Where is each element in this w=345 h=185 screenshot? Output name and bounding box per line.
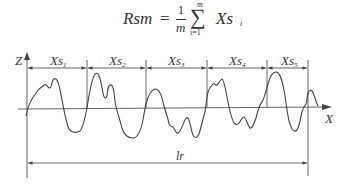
segment-label-subscript: 2 xyxy=(122,61,126,69)
segment-label-text: Xs xyxy=(229,53,242,68)
segment-label-subscript: 5 xyxy=(294,61,298,69)
segment-label-xs1: Xs1 xyxy=(50,54,67,72)
segment-label-text: Xs xyxy=(109,53,122,68)
segment-label-text: Xs xyxy=(168,53,181,68)
segment-label-xs2: Xs2 xyxy=(109,54,126,72)
segment-label-xs3: Xs3 xyxy=(168,54,185,72)
segment-label-xs4: Xs4 xyxy=(229,54,246,72)
segment-label-subscript: 3 xyxy=(181,61,185,69)
segment-label-subscript: 4 xyxy=(242,61,246,69)
z-axis-arrow-icon xyxy=(24,52,30,60)
segment-label-xs5: Xs5 xyxy=(281,54,298,72)
sampling-length-label: lr xyxy=(176,150,184,163)
segment-label-text: Xs xyxy=(50,53,63,68)
segment-label-text: Xs xyxy=(281,53,294,68)
roughness-profile-diagram xyxy=(0,0,345,185)
x-axis-arrow-icon xyxy=(322,104,332,110)
roughness-profile-curve xyxy=(26,72,318,138)
z-axis-label: Z xyxy=(15,54,22,67)
x-axis-label: X xyxy=(325,112,333,125)
segment-label-subscript: 1 xyxy=(63,61,67,69)
